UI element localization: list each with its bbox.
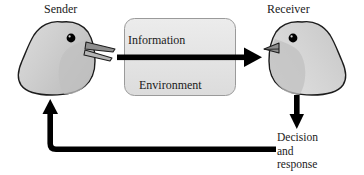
information-label: Information bbox=[128, 33, 185, 47]
decision-arrow bbox=[290, 95, 305, 129]
environment-label: Environment bbox=[139, 78, 202, 92]
receiver-bird-eye-highlight bbox=[291, 35, 293, 37]
sender-bird bbox=[18, 22, 115, 95]
feedback-arrow bbox=[43, 99, 277, 149]
sender-label: Sender bbox=[44, 2, 77, 16]
information-arrow-shaft bbox=[117, 55, 248, 61]
feedback-arrow-shaft bbox=[50, 110, 276, 149]
receiver-bird bbox=[264, 22, 346, 95]
decision-label-line-3: response bbox=[277, 158, 318, 172]
information-arrow-head bbox=[244, 48, 262, 68]
decision-label-line-1: Decision bbox=[277, 131, 318, 145]
sender-bird-eye bbox=[67, 34, 76, 43]
decision-arrow-head bbox=[290, 114, 305, 129]
decision-label-line-2: and bbox=[277, 145, 318, 159]
receiver-bird-eye bbox=[289, 34, 298, 43]
feedback-arrow-head bbox=[43, 99, 59, 114]
receiver-label: Receiver bbox=[267, 2, 310, 16]
sender-bird-eye-highlight bbox=[69, 35, 71, 37]
communication-model-diagram: Sender Receiver Information Environment … bbox=[0, 0, 364, 175]
decision-and-response-label: Decision and response bbox=[277, 131, 318, 172]
